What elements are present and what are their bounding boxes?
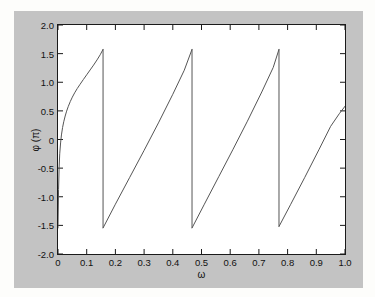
x-tick-label: 0.3	[137, 257, 150, 268]
x-tick-label: 0.4	[166, 257, 179, 268]
y-tick-label: 1.5	[41, 48, 54, 59]
phase-response-line	[58, 49, 345, 228]
matlab-figure-window: -2.0-1.5-1.0-0.500.51.01.52.0 00.10.20.3…	[14, 11, 363, 288]
x-tick-label: 0	[55, 257, 60, 268]
y-tick-label: -1.0	[38, 191, 54, 202]
x-tick-label: 0.1	[80, 257, 93, 268]
x-tick-label: 0.7	[252, 257, 265, 268]
y-tick-label: 0.5	[41, 105, 54, 116]
x-tick-label: 0.2	[109, 257, 122, 268]
y-tick-label: -1.5	[38, 220, 54, 231]
y-tick-label: -0.5	[38, 163, 54, 174]
y-tick-label: 0	[49, 134, 54, 145]
y-tick-label: -2.0	[38, 249, 54, 260]
x-tick-label: 1.0	[338, 257, 351, 268]
x-tick-label: 0.6	[224, 257, 237, 268]
y-tick-label: 2.0	[41, 20, 54, 31]
axis-ticks	[58, 25, 345, 254]
y-tick-label: 1.0	[41, 77, 54, 88]
x-tick-label: 0.8	[281, 257, 294, 268]
y-axis-label: φ (π)	[30, 128, 41, 151]
x-tick-label: 0.5	[195, 257, 208, 268]
plot-axes: -2.0-1.5-1.0-0.500.51.01.52.0 00.10.20.3…	[57, 24, 346, 255]
x-tick-label: 0.9	[310, 257, 323, 268]
figure-inner: -2.0-1.5-1.0-0.500.51.01.52.0 00.10.20.3…	[14, 11, 363, 288]
chart-canvas	[58, 25, 345, 254]
x-axis-label: ω	[198, 269, 206, 280]
